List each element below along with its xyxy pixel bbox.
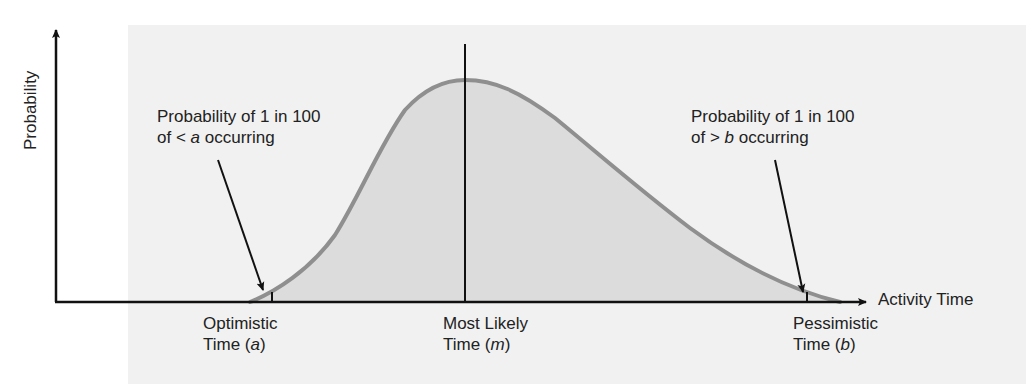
text: of > xyxy=(691,128,725,147)
annotation-left-line1: Probability of 1 in 100 xyxy=(157,106,321,127)
y-axis-label: Probability xyxy=(21,71,41,150)
annotation-left: Probability of 1 in 100 of < a occurring xyxy=(157,106,321,148)
label-pessimistic-time: Pessimistic Time (b) xyxy=(793,313,878,355)
text: ) xyxy=(505,335,511,354)
variable-b: b xyxy=(841,335,850,354)
arrow-right-annotation xyxy=(775,160,803,292)
label-most-likely-time: Most Likely Time (m) xyxy=(443,313,528,355)
text: occurring xyxy=(200,128,275,147)
text: Most Likely xyxy=(443,313,528,334)
text: Pessimistic xyxy=(793,313,878,334)
text: Optimistic xyxy=(203,313,278,334)
variable-m: m xyxy=(491,335,505,354)
text: Time ( xyxy=(793,335,841,354)
arrow-left-annotation xyxy=(218,160,263,290)
text: ) xyxy=(260,335,266,354)
x-axis-label: Activity Time xyxy=(878,289,973,310)
label-optimistic-time: Optimistic Time (a) xyxy=(203,313,278,355)
text: Time ( xyxy=(203,335,251,354)
annotation-left-line2: of < a occurring xyxy=(157,127,321,148)
variable-a: a xyxy=(191,128,200,147)
text: ) xyxy=(850,335,856,354)
text: Time ( xyxy=(443,335,491,354)
text: occurring xyxy=(734,128,809,147)
annotation-right-line2: of > b occurring xyxy=(691,127,855,148)
variable-a: a xyxy=(251,335,260,354)
annotation-right: Probability of 1 in 100 of > b occurring xyxy=(691,106,855,148)
annotation-right-line1: Probability of 1 in 100 xyxy=(691,106,855,127)
variable-b: b xyxy=(725,128,734,147)
text: of < xyxy=(157,128,191,147)
